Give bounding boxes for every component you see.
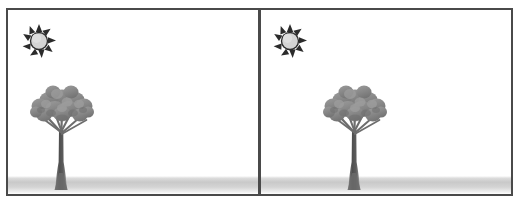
scene-stage xyxy=(0,0,521,209)
left-panel-scene xyxy=(8,10,258,194)
right-panel[interactable] xyxy=(259,8,513,196)
left-panel[interactable] xyxy=(6,8,260,196)
sun-icon xyxy=(273,24,307,58)
sun-icon xyxy=(22,24,56,58)
right-panel-scene xyxy=(261,10,511,194)
tree-icon xyxy=(317,78,393,190)
tree-icon xyxy=(24,78,100,190)
